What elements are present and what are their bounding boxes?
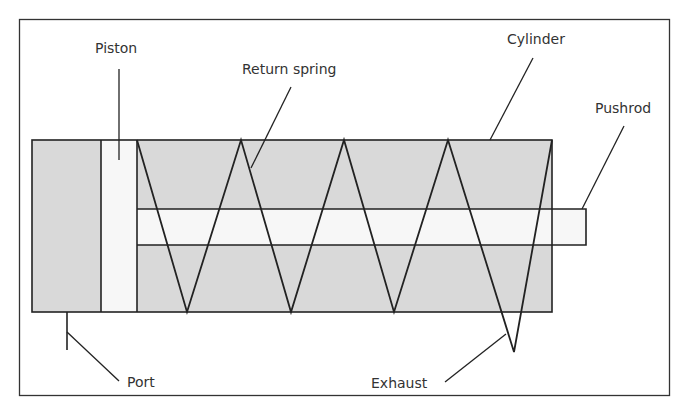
piston: [101, 140, 137, 312]
return-spring-label: Return spring: [242, 62, 337, 76]
piston-label: Piston: [95, 41, 137, 55]
pushrod-label: Pushrod: [595, 101, 651, 115]
port-label: Port: [127, 375, 155, 389]
cylinder-label: Cylinder: [507, 32, 565, 46]
pneumatic-cylinder-diagram: [0, 0, 685, 414]
pushrod: [137, 209, 586, 245]
exhaust-label: Exhaust: [371, 376, 427, 390]
